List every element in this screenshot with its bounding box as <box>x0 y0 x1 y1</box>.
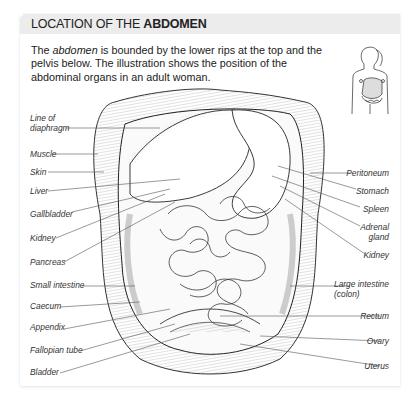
label-kidney-right: Kidney <box>363 250 389 260</box>
abdomen-info-card: LOCATION OF THE ABDOMEN The abdomen is b… <box>20 14 400 386</box>
label-small-intestine: Small intestine <box>30 280 84 290</box>
label-stomach: Stomach <box>356 186 389 196</box>
label-gallbladder: Gallbladder <box>30 209 73 219</box>
label-large-intestine: Large intestine(colon) <box>334 279 389 299</box>
label-fallopian-tube: Fallopian tube <box>30 345 83 355</box>
label-kidney-left: Kidney <box>30 233 56 243</box>
label-skin: Skin <box>30 167 46 177</box>
label-ovary: Ovary <box>367 336 389 346</box>
abdomen-illustration <box>20 14 400 386</box>
label-bladder: Bladder <box>30 367 59 377</box>
label-adrenal-gland: Adrenalgland <box>360 222 389 242</box>
label-uterus: Uterus <box>364 361 389 371</box>
label-liver: Liver <box>30 186 48 196</box>
label-caecum: Caecum <box>30 301 61 311</box>
label-rectum: Rectum <box>360 311 389 321</box>
label-spleen: Spleen <box>363 204 389 214</box>
label-pancreas: Pancreas <box>30 257 65 267</box>
label-muscle: Muscle <box>30 149 57 159</box>
label-line-of-diaphragm: Line ofdiaphragm <box>30 113 70 133</box>
label-appendix: Appendix <box>30 322 65 332</box>
label-peritoneum: Peritoneum <box>346 168 389 178</box>
